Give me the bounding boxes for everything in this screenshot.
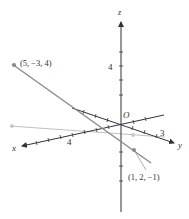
light-line — [10, 124, 165, 137]
y-tick-label: 3 — [160, 128, 165, 138]
y-axis-label: y — [177, 140, 182, 150]
point-label-1: (5, −3, 4) — [20, 58, 52, 68]
x-tick-label: 4 — [67, 137, 72, 147]
x-axis — [22, 115, 164, 146]
z-tick-label: 4 — [108, 62, 113, 72]
origin-label: O — [123, 110, 130, 120]
x-axis-label: x — [11, 143, 16, 153]
z-axis-label: z — [117, 8, 122, 17]
dark-line — [12, 63, 151, 170]
3d-coordinate-diagram: z 4 O 3 y 4 x (5, −3, 4) (1, 2, −1) — [0, 0, 189, 219]
point-label-2: (1, 2, −1) — [128, 172, 160, 182]
